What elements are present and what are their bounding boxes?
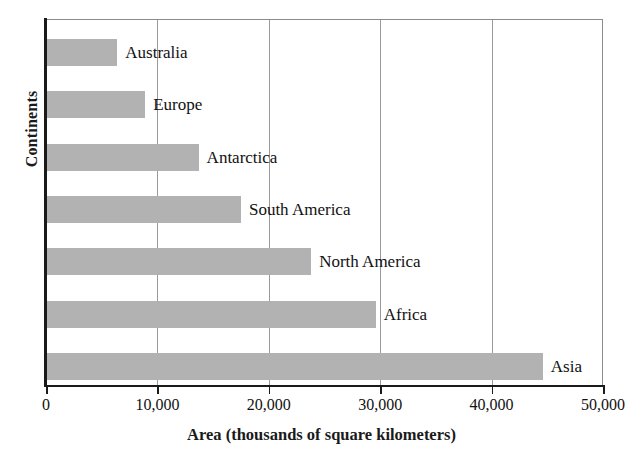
bar-label: Antarctica [207,144,278,171]
bar [46,144,199,171]
bar-label: Australia [125,39,187,66]
x-axis-title: Area (thousands of square kilometers) [0,425,643,445]
x-axis-tick-label: 20,000 [247,396,291,414]
x-axis-tick [46,385,48,394]
x-axis-tick-label: 10,000 [135,396,179,414]
bar [46,39,117,66]
x-axis-tick [492,385,494,394]
bar-chart: Continents AustraliaEuropeAntarcticaSout… [0,0,643,459]
bar [46,353,543,380]
plot-area: AustraliaEuropeAntarcticaSouth AmericaNo… [46,19,603,385]
bar-label: South America [249,196,351,223]
gridline [492,20,493,385]
bar-label: North America [319,248,421,275]
bar-label: Europe [153,91,202,118]
x-axis-tick-label: 40,000 [470,396,514,414]
x-axis-tick-label: 0 [42,396,50,414]
bar [46,196,241,223]
x-axis-tick-label: 30,000 [358,396,402,414]
y-axis-line [44,18,47,387]
x-axis-tick [269,385,271,394]
x-axis-line [44,385,605,387]
bar-label: Africa [384,301,427,328]
x-axis-tick [603,385,605,394]
gridline [380,20,381,385]
y-axis-title: Continents [23,49,41,209]
bar-label: Asia [551,353,582,380]
bar [46,301,376,328]
x-axis-tick-label: 50,000 [581,396,625,414]
bar [46,248,311,275]
bar [46,91,145,118]
x-axis-tick [380,385,382,394]
x-axis-tick [157,385,159,394]
